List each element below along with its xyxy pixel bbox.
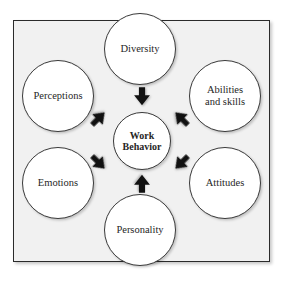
node-work-behavior: Work Behavior <box>113 112 171 170</box>
node-personality-label: Personality <box>113 224 166 236</box>
node-perceptions-label: Perceptions <box>31 90 86 102</box>
node-emotions-label: Emotions <box>35 177 81 189</box>
node-diversity: Diversity <box>104 13 176 85</box>
node-diversity-label: Diversity <box>117 43 162 55</box>
node-abilities: Abilities and skills <box>189 60 261 132</box>
node-perceptions: Perceptions <box>22 60 94 132</box>
arrow-personality-to-center <box>131 172 153 194</box>
node-personality: Personality <box>104 194 176 266</box>
node-abilities-label-line2: and skills <box>202 96 248 108</box>
node-attitudes: Attitudes <box>189 147 261 219</box>
node-abilities-label-line1: Abilities <box>202 84 248 96</box>
node-emotions: Emotions <box>22 147 94 219</box>
node-work-behavior-label-line1: Work <box>120 130 165 141</box>
arrow-diversity-to-center <box>131 86 153 108</box>
node-attitudes-label: Attitudes <box>203 177 248 189</box>
node-work-behavior-label-line2: Behavior <box>120 141 165 152</box>
diagram-canvas: Diversity Perceptions Abilities and skil… <box>0 0 285 282</box>
